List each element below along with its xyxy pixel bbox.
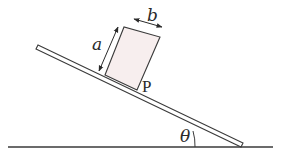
incline-diagram: a b P θ bbox=[0, 0, 298, 164]
label-theta: θ bbox=[180, 126, 190, 146]
label-a: a bbox=[92, 34, 102, 54]
label-b: b bbox=[147, 5, 158, 25]
label-p: P bbox=[142, 77, 151, 96]
angle-arc bbox=[193, 131, 195, 147]
